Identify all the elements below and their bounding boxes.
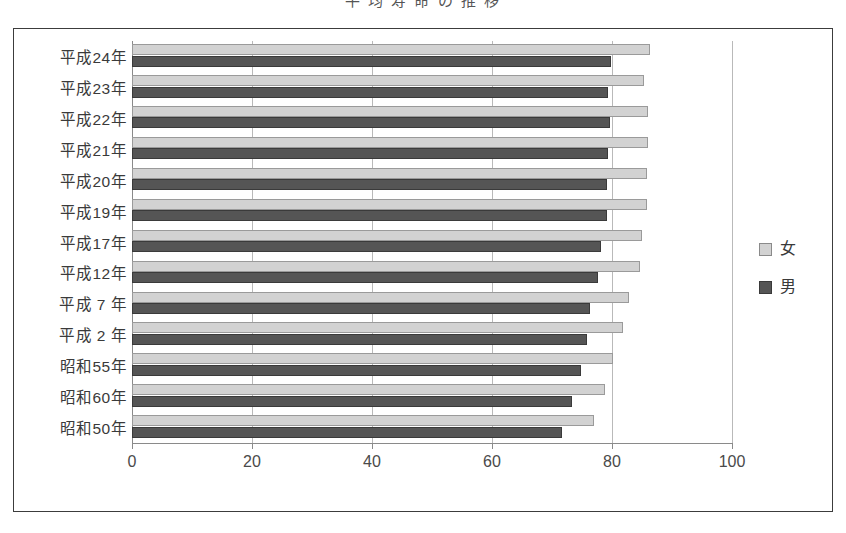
- bar-male: [132, 56, 611, 67]
- chart-row: 昭和55年: [132, 350, 732, 381]
- bar-female: [132, 322, 623, 333]
- chart-row: 平成 2 年: [132, 319, 732, 350]
- chart-row: 平成22年: [132, 103, 732, 134]
- x-axis-line: [132, 443, 733, 444]
- bar-female: [132, 292, 629, 303]
- category-label: 平成23年: [60, 76, 127, 98]
- bar-male: [132, 272, 598, 283]
- bar-male: [132, 427, 562, 438]
- chart-frame: 020406080100平成24年平成23年平成22年平成21年平成20年平成1…: [13, 28, 833, 512]
- chart-row: 平成19年: [132, 196, 732, 227]
- bar-male: [132, 396, 572, 407]
- chart-row: 平成23年: [132, 72, 732, 103]
- x-tick: [372, 443, 373, 449]
- category-label: 平成21年: [60, 138, 127, 160]
- legend-swatch-female-icon: [759, 243, 772, 256]
- bar-female: [132, 44, 650, 55]
- chart-row: 昭和60年: [132, 381, 732, 412]
- chart-row: 平成20年: [132, 165, 732, 196]
- x-tick: [252, 443, 253, 449]
- bar-male: [132, 241, 601, 252]
- bar-male: [132, 179, 607, 190]
- category-label: 平成20年: [60, 169, 127, 191]
- x-gridline: [732, 41, 733, 443]
- category-label: 平成 2 年: [59, 323, 127, 345]
- bar-male: [132, 117, 610, 128]
- bar-female: [132, 168, 647, 179]
- category-label: 昭和50年: [60, 416, 127, 438]
- category-label: 平成 7 年: [59, 292, 127, 314]
- bar-female: [132, 261, 640, 272]
- category-label: 昭和55年: [60, 354, 127, 376]
- x-tick-label: 0: [128, 453, 137, 471]
- legend-item-male: 男: [759, 279, 839, 295]
- category-label: 平成12年: [60, 261, 127, 283]
- bar-female: [132, 230, 642, 241]
- bar-male: [132, 148, 608, 159]
- bar-male: [132, 365, 581, 376]
- chart-row: 昭和50年: [132, 412, 732, 443]
- legend-label-female: 女: [780, 241, 796, 257]
- plot-area: 020406080100平成24年平成23年平成22年平成21年平成20年平成1…: [132, 41, 732, 443]
- bar-male: [132, 87, 608, 98]
- x-tick-label: 20: [243, 453, 261, 471]
- x-tick-label: 40: [363, 453, 381, 471]
- bar-male: [132, 210, 607, 221]
- category-label: 平成17年: [60, 231, 127, 253]
- chart-row: 平成24年: [132, 41, 732, 72]
- chart-page: 平 均 寿 命 の 推 移 020406080100平成24年平成23年平成22…: [0, 0, 846, 533]
- bar-female: [132, 75, 644, 86]
- chart-title-cropped: 平 均 寿 命 の 推 移: [0, 0, 846, 14]
- chart-row: 平成21年: [132, 134, 732, 165]
- x-tick-label: 60: [483, 453, 501, 471]
- x-tick: [732, 443, 733, 449]
- category-label: 平成24年: [60, 45, 127, 67]
- chart-row: 平成 7 年: [132, 288, 732, 319]
- chart-row: 平成17年: [132, 227, 732, 258]
- bar-female: [132, 353, 613, 364]
- x-tick-label: 80: [603, 453, 621, 471]
- bar-female: [132, 199, 647, 210]
- legend-item-female: 女: [759, 241, 839, 257]
- chart-title-text: 平 均 寿 命 の 推 移: [0, 0, 846, 10]
- x-tick: [492, 443, 493, 449]
- legend-swatch-male-icon: [759, 281, 772, 294]
- x-tick: [132, 443, 133, 449]
- x-tick-label: 100: [719, 453, 746, 471]
- bar-female: [132, 106, 648, 117]
- bar-male: [132, 334, 587, 345]
- chart-legend: 女 男: [759, 241, 839, 317]
- category-label: 平成22年: [60, 107, 127, 129]
- bar-female: [132, 415, 594, 426]
- x-tick: [612, 443, 613, 449]
- legend-label-male: 男: [780, 279, 796, 295]
- category-label: 平成19年: [60, 200, 127, 222]
- bar-male: [132, 303, 590, 314]
- bar-female: [132, 384, 605, 395]
- category-label: 昭和60年: [60, 385, 127, 407]
- chart-row: 平成12年: [132, 257, 732, 288]
- bar-female: [132, 137, 648, 148]
